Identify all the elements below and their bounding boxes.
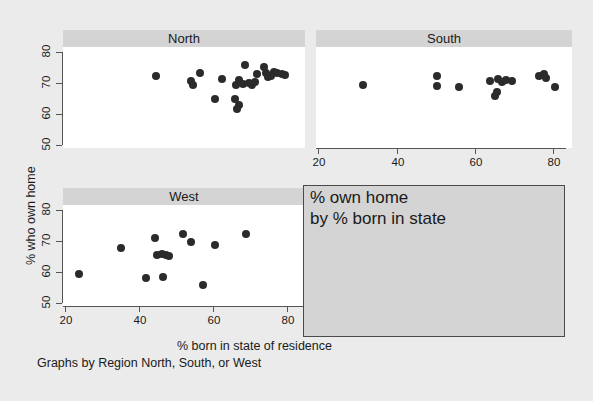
y-tick-north-50 (56, 145, 62, 146)
y-tick-west-70 (56, 241, 62, 242)
y-tick-north-60 (56, 114, 62, 115)
data-point (241, 61, 249, 69)
data-point (117, 244, 125, 252)
y-tick-label-west-60: 60 (40, 261, 52, 281)
data-point (251, 78, 259, 86)
x-tick-south-20 (318, 148, 319, 154)
y-tick-label-north-80: 80 (40, 41, 52, 61)
graphs-by-note: Graphs by Region North, South, or West (37, 356, 261, 370)
y-tick-west-80 (56, 210, 62, 211)
plot-area-west (63, 205, 305, 306)
data-point (242, 230, 250, 238)
y-axis-line-north (62, 52, 63, 145)
title-legend-box: % own home by % born in state (303, 185, 565, 337)
x-tick-south-60 (475, 148, 476, 154)
x-tick-west-80 (287, 306, 288, 312)
data-point (218, 75, 226, 83)
x-tick-label-south-80: 80 (546, 156, 562, 168)
x-tick-label-west-40: 40 (132, 314, 148, 326)
y-tick-west-60 (56, 272, 62, 273)
data-point (142, 274, 150, 282)
y-tick-west-50 (56, 303, 62, 304)
data-point (179, 230, 187, 238)
data-point (159, 273, 167, 281)
x-tick-west-40 (139, 306, 140, 312)
data-point (151, 234, 159, 242)
panel-header-south: South (316, 30, 572, 47)
x-tick-west-60 (213, 306, 214, 312)
x-axis-title: % born in state of residence (177, 339, 332, 353)
x-tick-label-south-60: 60 (468, 156, 484, 168)
panel-header-west: West (63, 188, 305, 205)
data-point (455, 83, 463, 91)
x-tick-label-west-20: 20 (58, 314, 74, 326)
panel-header-north: North (63, 30, 305, 47)
data-point (211, 241, 219, 249)
y-tick-label-west-70: 70 (40, 230, 52, 250)
x-tick-south-40 (397, 148, 398, 154)
legend-title-line-1: % own home (310, 188, 408, 208)
plot-area-north (63, 47, 305, 148)
x-tick-label-west-80: 80 (280, 314, 296, 326)
y-tick-label-north-70: 70 (40, 72, 52, 92)
data-point (359, 81, 367, 89)
y-tick-north-80 (56, 52, 62, 53)
x-tick-west-20 (65, 306, 66, 312)
x-tick-label-south-40: 40 (390, 156, 406, 168)
y-tick-label-west-80: 80 (40, 199, 52, 219)
data-point (152, 72, 160, 80)
data-point (433, 72, 441, 80)
x-tick-label-south-20: 20 (311, 156, 327, 168)
data-point (508, 77, 516, 85)
x-tick-label-west-60: 60 (206, 314, 222, 326)
y-tick-label-north-50: 50 (40, 134, 52, 154)
x-axis-line-south (316, 148, 566, 149)
data-point (75, 270, 83, 278)
legend-title-line-2: by % born in state (310, 209, 446, 229)
y-axis-title: % who own home (24, 166, 38, 265)
data-point (211, 95, 219, 103)
figure-canvas: % who own home North 80 70 60 50 South 2… (0, 0, 593, 401)
data-point (542, 74, 550, 82)
data-point (551, 83, 559, 91)
x-tick-south-80 (553, 148, 554, 154)
data-point (187, 238, 195, 246)
plot-area-south (316, 47, 572, 148)
y-tick-north-70 (56, 83, 62, 84)
x-axis-line-west (63, 306, 305, 307)
y-tick-label-west-50: 50 (40, 292, 52, 312)
y-axis-line-west (62, 210, 63, 303)
y-tick-label-north-60: 60 (40, 103, 52, 123)
